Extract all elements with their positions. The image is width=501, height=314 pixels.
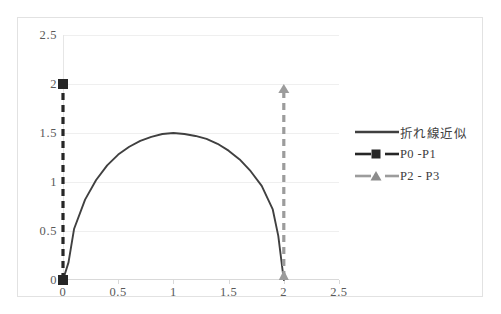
marker-p2-triangle <box>279 270 289 280</box>
y-tick-label-2-5: 2.5 <box>40 28 57 43</box>
x-tick-label-1-5: 1.5 <box>220 285 237 300</box>
solid-line-key-icon <box>354 125 400 139</box>
x-tick-label-1: 1 <box>170 285 177 300</box>
y-tick-label-2-0: 2 <box>50 77 57 92</box>
chart-frame: 2.5 2 1.5 1 0.5 0 0 0.5 1 1.5 2 2.5 <box>17 17 483 297</box>
marker-p0-square <box>58 275 68 285</box>
x-tick-label-0: 0 <box>60 285 67 300</box>
x-tick-mark-0-5 <box>118 280 119 284</box>
x-tick-label-2-5: 2.5 <box>330 285 347 300</box>
x-tick-label-2: 2 <box>280 285 287 300</box>
x-tick-mark-1 <box>173 280 174 284</box>
legend-label-p0p1: P0 -P1 <box>400 147 436 162</box>
plot-area: 2.5 2 1.5 1 0.5 0 0 0.5 1 1.5 2 2.5 <box>63 35 339 280</box>
y-tick-label-1-5: 1.5 <box>40 126 57 141</box>
legend-entry-p0p1[interactable]: P0 -P1 <box>354 143 480 165</box>
dashed-triangle-key-icon <box>354 169 400 183</box>
y-tick-label-0: 0 <box>50 273 57 288</box>
marker-p1-square <box>58 79 68 89</box>
legend-label-p2p3: P2 - P3 <box>400 169 440 184</box>
series-canvas <box>63 35 339 280</box>
y-tick-label-0-5: 0.5 <box>40 224 57 239</box>
chart-legend: 折れ線近似 P0 -P1 P2 - P3 <box>354 121 480 187</box>
series-line-approx <box>63 133 284 280</box>
legend-entry-approx[interactable]: 折れ線近似 <box>354 121 480 143</box>
x-tick-mark-2-5 <box>339 280 340 284</box>
marker-p3-arrowhead <box>278 84 289 93</box>
legend-label-approx: 折れ線近似 <box>400 123 467 142</box>
y-tick-label-1-0: 1 <box>50 175 57 190</box>
dashed-square-key-icon <box>354 147 400 161</box>
x-tick-mark-1-5 <box>229 280 230 284</box>
x-tick-label-0-5: 0.5 <box>109 285 126 300</box>
legend-entry-p2p3[interactable]: P2 - P3 <box>354 165 480 187</box>
